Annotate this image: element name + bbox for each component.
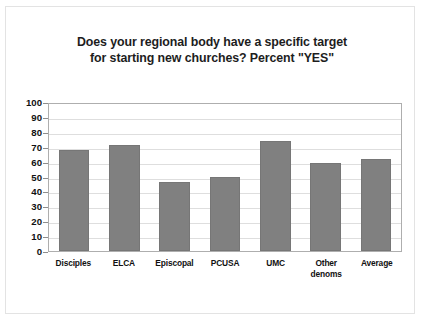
x-axis-tick-label-line: Average bbox=[351, 258, 402, 269]
chart-title-line-1: Does your regional body have a specific … bbox=[28, 34, 396, 50]
x-axis-tick-label: Disciples bbox=[48, 258, 99, 280]
y-axis-tick-label: 80 bbox=[10, 128, 42, 138]
y-axis-tick-mark bbox=[43, 133, 48, 134]
y-axis-tick-mark bbox=[43, 237, 48, 238]
y-axis-tick-label: 20 bbox=[10, 217, 42, 227]
y-axis-tick-label: 70 bbox=[10, 143, 42, 153]
bar-slot bbox=[99, 104, 149, 251]
y-axis-tick-label: 0 bbox=[10, 247, 42, 257]
y-axis-tick-mark bbox=[43, 118, 48, 119]
chart-title: Does your regional body have a specific … bbox=[28, 34, 396, 66]
x-axis-tick-label: Otherdenoms bbox=[301, 258, 352, 280]
bar bbox=[260, 141, 291, 251]
y-axis-tick-label: 10 bbox=[10, 232, 42, 242]
y-axis-tick-label: 100 bbox=[10, 98, 42, 108]
bar bbox=[109, 145, 140, 251]
x-axis-tick-label-line: Episcopal bbox=[149, 258, 200, 269]
x-axis-tick-label-line: UMC bbox=[250, 258, 301, 269]
x-axis-tick-label: Average bbox=[351, 258, 402, 280]
y-axis-tick-label: 40 bbox=[10, 187, 42, 197]
y-axis-tick-label: 30 bbox=[10, 202, 42, 212]
bar-slot bbox=[49, 104, 99, 251]
x-axis-tick-label: ELCA bbox=[99, 258, 150, 280]
x-axis: DisciplesELCAEpiscopalPCUSAUMCOtherdenom… bbox=[48, 258, 402, 280]
y-axis-tick-label: 60 bbox=[10, 158, 42, 168]
bar-series bbox=[49, 104, 401, 251]
y-axis-tick-mark bbox=[43, 148, 48, 149]
bar bbox=[159, 182, 190, 251]
y-axis-tick-mark bbox=[43, 103, 48, 104]
x-axis-tick-label-line: Disciples bbox=[48, 258, 99, 269]
bar-slot bbox=[300, 104, 350, 251]
x-axis-tick-label-line: Other bbox=[301, 258, 352, 269]
bar bbox=[310, 163, 341, 251]
bar-slot bbox=[250, 104, 300, 251]
x-axis-tick-label-line: PCUSA bbox=[200, 258, 251, 269]
x-axis-tick-label: UMC bbox=[250, 258, 301, 280]
y-axis-tick-label: 90 bbox=[10, 113, 42, 123]
y-axis-tick-mark bbox=[43, 222, 48, 223]
bar-slot bbox=[150, 104, 200, 251]
y-axis-tick-mark bbox=[43, 207, 48, 208]
x-axis-tick-label-line: denoms bbox=[301, 269, 352, 280]
y-axis: 1009080706050403020100 bbox=[10, 103, 42, 252]
chart-figure: Does your regional body have a specific … bbox=[0, 0, 421, 321]
y-axis-tick-mark bbox=[43, 163, 48, 164]
bar-slot bbox=[351, 104, 401, 251]
bar-slot bbox=[200, 104, 250, 251]
y-axis-tick-label: 50 bbox=[10, 173, 42, 183]
y-axis-tick-mark bbox=[43, 252, 48, 253]
bar bbox=[210, 177, 241, 252]
bar bbox=[361, 159, 392, 251]
x-axis-tick-label: Episcopal bbox=[149, 258, 200, 280]
y-axis-tick-mark bbox=[43, 178, 48, 179]
plot-area bbox=[48, 103, 402, 252]
bar bbox=[59, 150, 90, 251]
y-axis-tick-mark bbox=[43, 192, 48, 193]
x-axis-tick-label-line: ELCA bbox=[99, 258, 150, 269]
x-axis-tick-label: PCUSA bbox=[200, 258, 251, 280]
chart-title-line-2: for starting new churches? Percent "YES" bbox=[28, 50, 396, 66]
